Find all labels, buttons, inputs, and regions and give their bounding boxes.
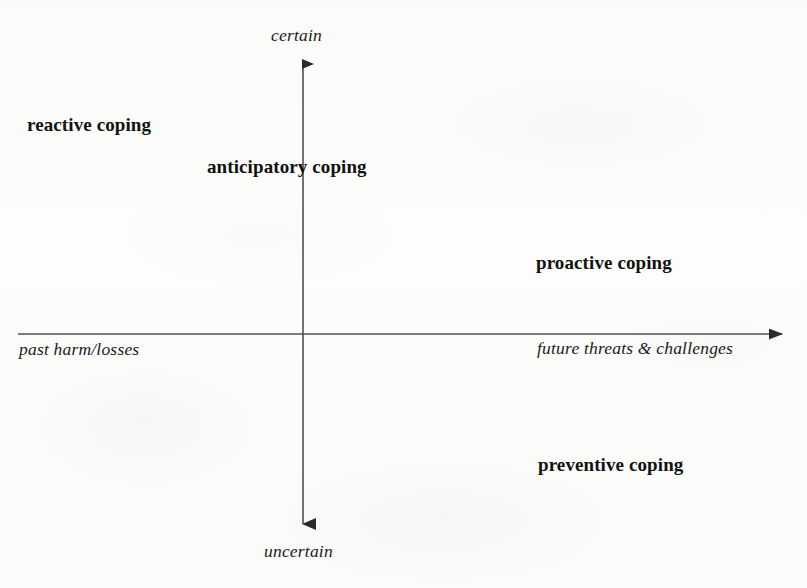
axis-label-future-threats-challenges: future threats & challenges bbox=[537, 338, 733, 359]
axis-label-past-harm-losses: past harm/losses bbox=[19, 339, 139, 360]
axis-label-uncertain: uncertain bbox=[264, 541, 333, 562]
coping-model-diagram: certain uncertain past harm/losses futur… bbox=[0, 0, 807, 588]
axis-label-certain: certain bbox=[271, 25, 322, 46]
quadrant-label-preventive-coping: preventive coping bbox=[538, 454, 683, 476]
quadrant-label-reactive-coping: reactive coping bbox=[27, 114, 151, 136]
quadrant-label-proactive-coping: proactive coping bbox=[536, 252, 672, 274]
axes-layer bbox=[0, 0, 807, 588]
quadrant-label-anticipatory-coping: anticipatory coping bbox=[207, 156, 367, 178]
